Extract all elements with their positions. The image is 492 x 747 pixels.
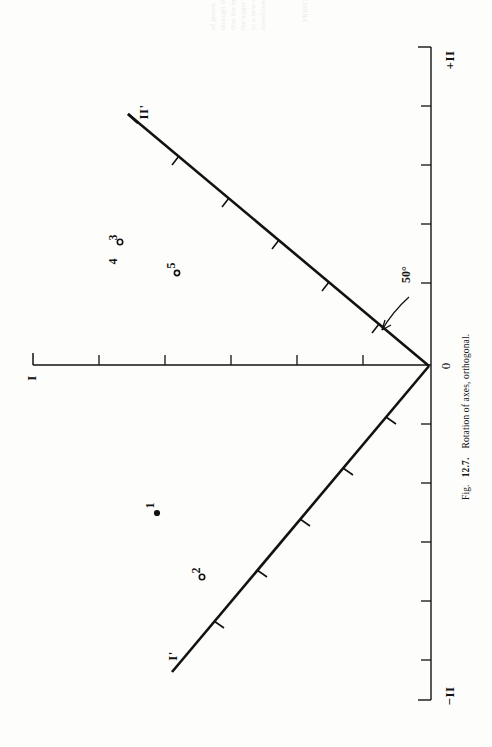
axis-label-II-negative: −II <box>442 686 458 705</box>
data-point-label-3: 3 <box>106 235 121 241</box>
data-points-group <box>117 239 204 579</box>
axis-II-prime-tick <box>222 198 229 207</box>
axis-label-I-prime: I' <box>165 651 181 661</box>
axis-I-prime-tick <box>300 519 310 526</box>
data-point-label-4: 4 <box>106 259 121 265</box>
axis-I-prime-tick <box>343 468 353 475</box>
axis-II-group <box>418 47 431 700</box>
axis-I-group <box>33 353 431 365</box>
data-point-label-5: 5 <box>164 263 179 269</box>
figure-page: PRINCIPAL COMPONENTS transformation of t… <box>0 0 492 747</box>
axis-II-prime-tick <box>372 324 379 333</box>
axis-II-prime-tick <box>272 240 279 249</box>
rotation-of-axes-figure <box>0 0 492 747</box>
axis-II-prime-tick <box>322 282 329 291</box>
axis-II-prime-tick <box>172 156 179 165</box>
axis-I-prime-group <box>172 366 429 672</box>
axis-I-prime-tick <box>386 417 396 424</box>
caption-number: 12.7. <box>461 458 471 478</box>
data-point-label-1: 1 <box>143 503 158 509</box>
axis-I-prime-tick <box>257 570 267 577</box>
axis-label-II-positive: +II <box>442 50 458 69</box>
angle-annotation-group <box>382 297 409 330</box>
data-point-marker <box>174 270 179 275</box>
data-point-label-2: 2 <box>189 568 204 574</box>
axis-I-prime-tick <box>214 621 224 628</box>
axis-label-II-prime: II' <box>136 104 152 119</box>
data-point-marker <box>154 510 160 516</box>
caption-prefix: Fig. <box>461 484 471 500</box>
figure-caption: Fig. 12.7. Rotation of axes, orthogonal. <box>455 334 473 500</box>
data-point-marker <box>199 574 204 579</box>
axis-label-I: I <box>24 375 40 381</box>
angle-label-50deg: 50° <box>399 266 414 283</box>
origin-label: 0 <box>438 363 454 370</box>
caption-text: Rotation of axes, orthogonal. <box>461 334 471 449</box>
axis-II-prime-group <box>128 114 429 366</box>
angle-arrow-curve <box>382 297 409 330</box>
